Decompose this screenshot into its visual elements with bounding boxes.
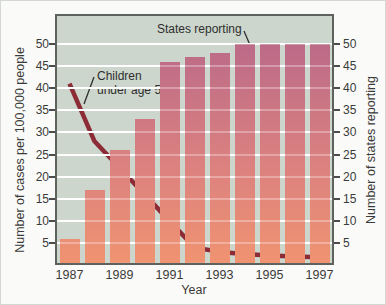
pointer-children-line	[84, 77, 94, 104]
gridline-overlay	[57, 65, 332, 67]
y-tickmark-right	[334, 242, 340, 244]
y-tick-label-right: 15	[343, 191, 356, 207]
y-tickmark-right	[334, 87, 340, 89]
y-tick-label-left: 30	[36, 124, 49, 140]
y-tickmark-right	[334, 109, 340, 111]
gridline-overlay	[57, 220, 332, 222]
y-tick-label-right: 5	[343, 235, 350, 251]
y-tick-label-right: 40	[343, 80, 356, 96]
x-tick-label-1993: 1993	[198, 267, 242, 283]
y-tickmark-right	[334, 198, 340, 200]
gridline-overlay	[57, 176, 332, 178]
y-tickmark-left	[49, 109, 55, 111]
y-tickmark-right	[334, 65, 340, 67]
y-tick-label-right: 25	[343, 147, 356, 163]
gridline-overlay	[57, 198, 332, 200]
y-tick-label-left: 50	[36, 36, 49, 52]
x-tick-label-1987: 1987	[48, 267, 92, 283]
gridline-overlay	[57, 87, 332, 89]
y-tick-label-left: 45	[36, 58, 49, 74]
y-tick-label-right: 20	[343, 169, 356, 185]
y-tickmark-left	[49, 65, 55, 67]
gridline-overlay	[57, 43, 332, 45]
y-tick-label-right: 30	[343, 124, 356, 140]
y-tick-label-left: 40	[36, 80, 49, 96]
y-tick-label-left: 35	[36, 102, 49, 118]
plot-area: Children under age 5 States reporting	[57, 16, 332, 263]
bar-1991	[160, 62, 180, 263]
y-tick-label-right: 35	[343, 102, 356, 118]
annotation-children-under-5: Children under age 5	[97, 69, 161, 97]
x-axis-title: Year	[181, 283, 206, 297]
right-axis-title: Number of states reporting	[364, 76, 378, 224]
y-tickmark-right	[334, 220, 340, 222]
gridline-overlay	[57, 154, 332, 156]
y-tickmark-left	[49, 198, 55, 200]
y-tickmark-left	[49, 242, 55, 244]
y-tick-label-right: 10	[343, 213, 356, 229]
y-tickmark-right	[334, 131, 340, 133]
chart-figure: Children under age 5 States reporting Nu…	[0, 0, 386, 305]
y-tickmark-left	[49, 131, 55, 133]
left-axis-title: Number of cases per 100,000 people	[13, 47, 27, 253]
x-tick-label-1991: 1991	[148, 267, 192, 283]
gridline-overlay	[57, 131, 332, 133]
y-tick-label-left: 20	[36, 169, 49, 185]
y-tickmark-right	[334, 154, 340, 156]
y-tickmark-right	[334, 43, 340, 45]
y-tick-label-left: 5	[42, 235, 49, 251]
y-tickmark-left	[49, 220, 55, 222]
y-tickmark-left	[49, 43, 55, 45]
y-tickmark-right	[334, 176, 340, 178]
annotation-states-reporting: States reporting	[157, 22, 242, 36]
gridline-overlay	[57, 242, 332, 244]
y-tick-label-left: 10	[36, 213, 49, 229]
x-tick-label-1989: 1989	[98, 267, 142, 283]
annotation-children-line2: under age 5	[97, 83, 161, 97]
y-tickmark-left	[49, 176, 55, 178]
bar-1989	[110, 150, 130, 263]
y-tick-label-right: 50	[343, 36, 356, 52]
y-tick-label-right: 45	[343, 58, 356, 74]
bar-1993	[210, 53, 230, 263]
y-tick-label-left: 25	[36, 147, 49, 163]
gridline-overlay	[57, 109, 332, 111]
annotation-children-line1: Children	[97, 69, 161, 83]
bar-1988	[85, 190, 105, 263]
y-tick-label-left: 15	[36, 191, 49, 207]
x-tick-label-1995: 1995	[248, 267, 292, 283]
y-tickmark-left	[49, 87, 55, 89]
y-tickmark-left	[49, 154, 55, 156]
x-tick-label-1997: 1997	[298, 267, 342, 283]
